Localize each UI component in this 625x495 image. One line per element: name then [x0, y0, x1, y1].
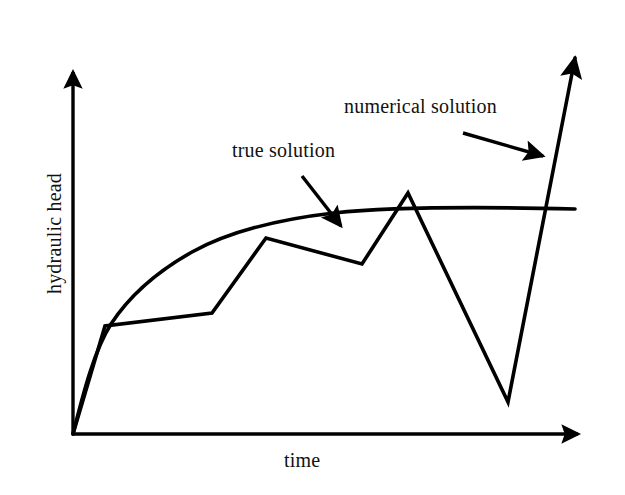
figure-canvas: hydraulic head time true solution numeri… — [0, 0, 625, 495]
numerical-solution-annotation-arrow — [463, 133, 543, 156]
x-axis-label: time — [284, 449, 320, 472]
true-solution-annotation-arrow — [302, 176, 341, 226]
true-solution-label: true solution — [232, 139, 335, 162]
plot-area — [0, 0, 625, 495]
numerical-solution-label: numerical solution — [344, 95, 497, 118]
numerical-solution-polyline — [73, 58, 575, 434]
y-axis-label: hydraulic head — [43, 154, 66, 314]
